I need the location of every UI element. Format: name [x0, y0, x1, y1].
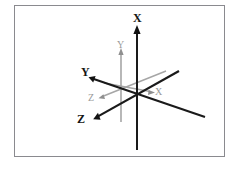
primary-frame-group — [89, 25, 206, 150]
axis-label-x-primary: X — [133, 12, 142, 24]
secondary-axis-z-arrowhead — [99, 94, 106, 99]
figure-root: X Y Z Y X Z — [0, 0, 237, 172]
primary-axis-y-line — [93, 79, 205, 117]
axis-label-z-primary: Z — [77, 113, 85, 125]
axis-label-y-primary: Y — [81, 66, 90, 78]
secondary-axis-x-arrowhead — [148, 90, 155, 95]
axes-diagram-svg — [0, 0, 237, 172]
axis-label-x-secondary: X — [155, 87, 162, 97]
axis-label-z-secondary: Z — [88, 93, 94, 103]
axis-label-y-secondary: Y — [117, 40, 124, 50]
primary-axis-x-arrowhead — [133, 25, 140, 34]
